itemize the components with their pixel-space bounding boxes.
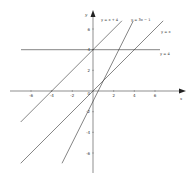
- label-y-equals-x-plus-4: y = x + 4: [101, 18, 119, 22]
- y-tick-label: -4: [86, 130, 90, 135]
- x-tick-label: 6: [154, 93, 157, 98]
- y-tick-label: 2: [87, 68, 90, 73]
- y-axis-label: y: [84, 12, 88, 17]
- y-tick-label: 6: [87, 27, 90, 32]
- line-y-equals-x: [21, 21, 164, 164]
- line-y-equals-x-plus-4: [21, 21, 122, 122]
- y-axis: [91, 10, 96, 173]
- x-tick-label: -2: [70, 93, 74, 98]
- x-axis-arrow-icon: [179, 89, 186, 94]
- graph-plot: -6 -4 -2 2 4 6 6 4 2 -2 -4 -6 0 x y y = …: [0, 0, 191, 180]
- x-tick-label: -4: [50, 93, 54, 98]
- x-tick-label: 2: [112, 93, 115, 98]
- x-axis-label: x: [180, 96, 183, 101]
- label-y-equals-3x-minus-1: y = 3x − 1: [131, 18, 150, 22]
- y-tick-label: -6: [86, 151, 90, 156]
- label-y-equals-x: y = x: [161, 30, 171, 34]
- x-tick-label: -6: [29, 93, 33, 98]
- x-tick-label: 4: [133, 93, 136, 98]
- y-axis-arrow-icon: [91, 10, 96, 17]
- label-y-equals-4: y = 4: [160, 52, 170, 56]
